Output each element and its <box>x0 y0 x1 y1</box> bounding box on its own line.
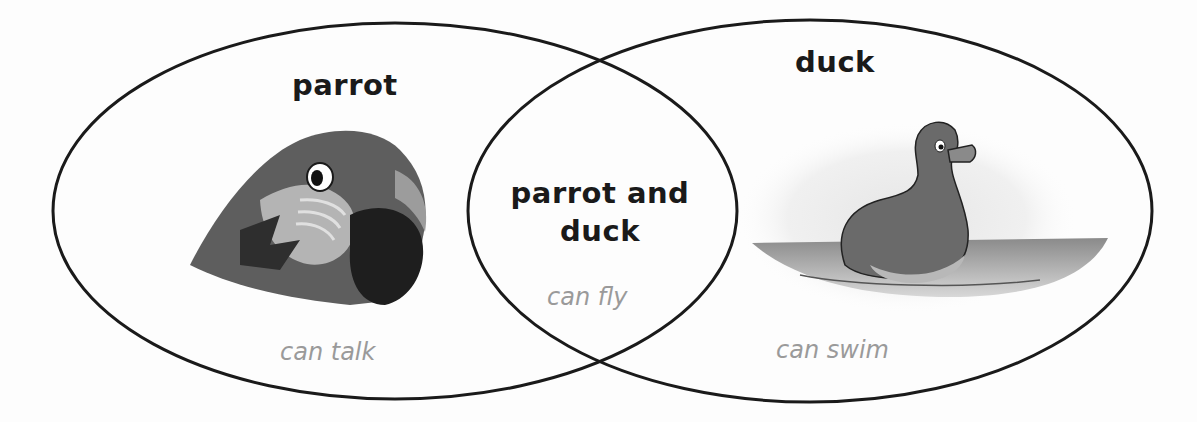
venn-diagram: parrot duck parrot and duck can talk can… <box>0 0 1197 422</box>
intersection-label-line1: parrot and <box>500 174 700 212</box>
intersection-label-line2: duck <box>500 212 700 250</box>
duck-set-label: duck <box>795 48 875 77</box>
parrot-illustration <box>190 131 426 305</box>
duck-illustration <box>737 122 1108 313</box>
intersection-label: parrot and duck <box>500 174 700 250</box>
parrot-set-label: parrot <box>292 71 398 100</box>
parrot-trait: can talk <box>280 340 375 364</box>
intersection-trait: can fly <box>547 285 627 309</box>
duck-trait: can swim <box>776 338 889 362</box>
